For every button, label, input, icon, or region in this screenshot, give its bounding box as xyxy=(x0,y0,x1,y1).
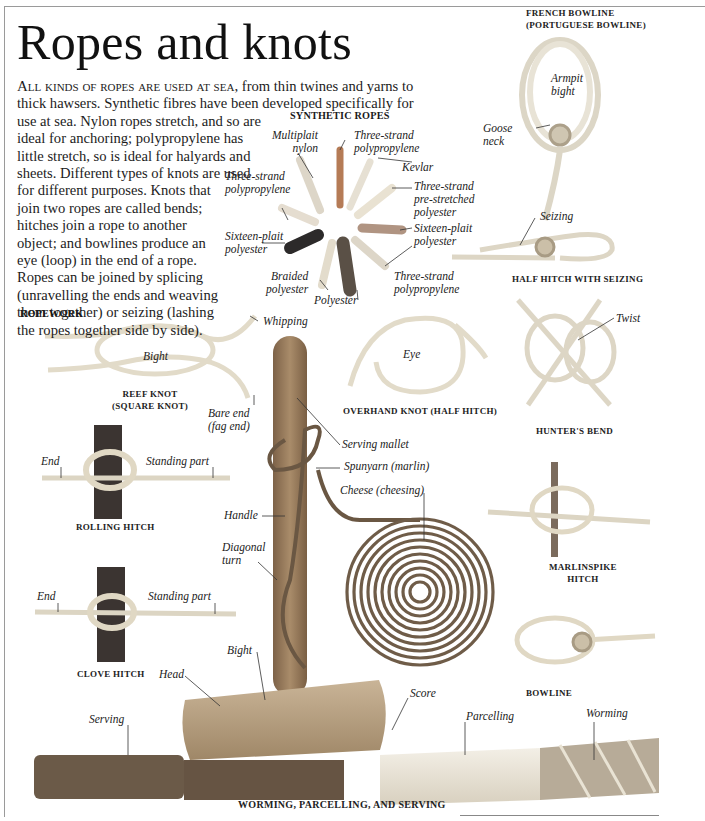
label-three-strand-pp-left: Three-strandpolypropylene xyxy=(225,170,290,196)
label-head: Head xyxy=(159,668,184,681)
page-title: Ropes and knots xyxy=(17,14,352,70)
caption-rolling-hitch: ROLLING HITCH xyxy=(76,521,155,533)
label-worming: Worming xyxy=(586,707,628,720)
label-parcelling: Parcelling xyxy=(466,710,514,723)
caption-french-bowline: FRENCH BOWLINE(PORTUGUESE BOWLINE) xyxy=(526,7,646,31)
label-braided-polyester: Braidedpolyester xyxy=(266,270,308,296)
marlinspike-hitch-illustration xyxy=(488,462,650,557)
caption-bowline: BOWLINE xyxy=(526,687,572,699)
intro-lead: All kinds of ropes are used at sea, xyxy=(17,78,238,94)
hunters-bend-illustration xyxy=(518,300,614,405)
label-bare-end: Bare end(fag end) xyxy=(208,407,250,433)
label-spunyarn: Spunyarn (marlin) xyxy=(344,460,429,473)
label-armpit-bight: Armpitbight xyxy=(551,72,583,98)
caption-worming-parcelling-serving: WORMING, PARCELLING, AND SERVING xyxy=(238,799,446,811)
caption-reef-knot: REEF KNOT(SQUARE KNOT) xyxy=(112,388,188,412)
label-serving: Serving xyxy=(89,713,124,726)
label-whipping: Whipping xyxy=(263,315,308,328)
caption-clove-hitch: CLOVE HITCH xyxy=(77,668,145,680)
half-hitch-seizing-illustration xyxy=(452,235,612,259)
label-cheese: Cheese (cheesing) xyxy=(340,484,424,497)
label-three-strand-prestretched: Three-strandpre-stretchedpolyester xyxy=(414,180,474,219)
label-three-strand-pp-top: Three-strandpolypropylene xyxy=(354,129,419,155)
label-multiplait-nylon: Multiplaitnylon xyxy=(272,129,318,155)
label-twist: Twist xyxy=(616,312,640,325)
label-polyester: Polyester xyxy=(314,294,357,307)
caption-half-hitch-seizing: HALF HITCH WITH SEIZING xyxy=(512,273,643,285)
cheese-coil-illustration xyxy=(347,519,493,665)
label-three-strand-pp-bottom: Three-strandpolypropylene xyxy=(394,270,459,296)
rolling-hitch-illustration xyxy=(42,425,230,519)
synthetic-ropes-heading: SYNTHETIC ROPES xyxy=(290,110,390,121)
label-bight-mallet: Bight xyxy=(227,644,252,657)
label-score: Score xyxy=(410,687,436,700)
label-sixteen-plait-left: Sixteen-plaitpolyester xyxy=(225,230,283,256)
label-handle: Handle xyxy=(224,509,258,522)
label-seizing: Seizing xyxy=(540,210,573,223)
french-bowline-illustration xyxy=(522,40,598,220)
label-standing-part-clove: Standing part xyxy=(148,590,211,603)
clove-hitch-illustration xyxy=(35,567,236,662)
label-diagonal-turn: Diagonalturn xyxy=(222,541,265,567)
label-standing-part-rolling: Standing part xyxy=(146,455,209,468)
label-end-clove: End xyxy=(37,590,56,603)
caption-marlinspike-hitch: MARLINSPIKEHITCH xyxy=(549,561,617,585)
bowline-illustration xyxy=(517,618,655,662)
label-end-rolling: End xyxy=(41,455,60,468)
label-serving-mallet: Serving mallet xyxy=(342,438,409,451)
ropework-heading: ROPEWORK xyxy=(20,308,83,319)
label-kevlar: Kevlar xyxy=(402,161,433,174)
label-eye: Eye xyxy=(403,348,420,361)
caption-hunters-bend: HUNTER'S BEND xyxy=(536,425,613,437)
label-goose-neck: Gooseneck xyxy=(483,122,512,148)
serving-mallet-illustration xyxy=(182,336,420,760)
label-sixteen-plait-right: Sixteen-plaitpolyester xyxy=(414,222,472,248)
caption-overhand-knot: OVERHAND KNOT (HALF HITCH) xyxy=(343,405,497,417)
label-bight-reef: Bight xyxy=(143,350,168,363)
